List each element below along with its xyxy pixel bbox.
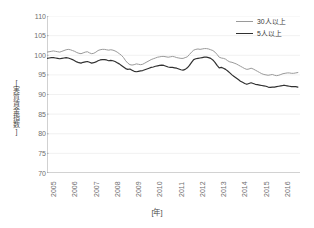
y-tick-label: 110 [26, 13, 46, 20]
y-tick-label: 90 [26, 91, 46, 98]
x-tick-label: 2009 [135, 181, 142, 197]
x-tick-label: 2010 [156, 181, 163, 197]
y-axis-title: [実質賃金指数] [6, 58, 20, 156]
legend-item-30: 30人以上 [236, 16, 312, 26]
legend-label-30: 30人以上 [257, 16, 286, 26]
x-tick-label: 2013 [220, 181, 227, 197]
y-tick-label: 100 [26, 52, 46, 59]
x-axis-title: [年] [0, 206, 314, 217]
legend-item-5: 5人以上 [236, 28, 312, 38]
y-tick-label: 85 [26, 111, 46, 118]
x-axis-tick-labels: 2005200620072008200920102011201220132014… [47, 175, 300, 205]
data-series-group [47, 49, 298, 88]
legend-label-5: 5人以上 [257, 28, 282, 38]
y-tick-label: 105 [26, 32, 46, 39]
x-tick-label: 2011 [178, 182, 185, 197]
x-tick-label: 2016 [284, 181, 291, 197]
chart-container: [実質賃金指数] 110105100959085807570 200520062… [0, 0, 314, 228]
y-tick-label: 80 [26, 130, 46, 137]
y-axis-tick-labels: 110105100959085807570 [24, 0, 46, 228]
x-tick-label: 2008 [114, 181, 121, 197]
x-tick-label: 2014 [241, 181, 248, 197]
x-tick-label: 2005 [50, 181, 57, 197]
x-tick-label: 2012 [199, 181, 206, 197]
y-tick-label: 95 [26, 71, 46, 78]
y-tick-label: 70 [26, 170, 46, 177]
chart-legend: 30人以上 5人以上 [236, 16, 312, 40]
legend-swatch-30 [236, 21, 253, 22]
x-tick-label: 2006 [71, 181, 78, 197]
legend-swatch-5 [236, 33, 253, 34]
x-tick-label: 2007 [93, 181, 100, 197]
x-tick-label: 2015 [263, 181, 270, 197]
y-tick-label: 75 [26, 150, 46, 157]
